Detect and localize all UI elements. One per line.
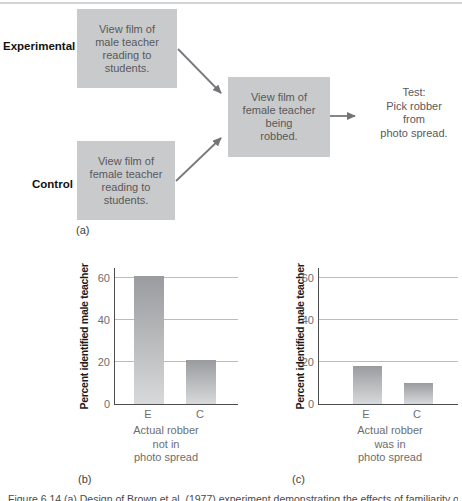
y-tick-label: 60 xyxy=(288,272,314,285)
chart-c-condition-note: Actual robber was in photo spread xyxy=(328,424,452,465)
y-tick-label: 20 xyxy=(84,356,110,369)
robbery-box-line: View film of xyxy=(228,91,330,104)
experimental-box-line: View film of xyxy=(77,23,177,36)
bar-control xyxy=(404,383,433,404)
robbery-box-line: robbed. xyxy=(228,130,330,143)
robbery-box-line: female teacher xyxy=(228,104,330,117)
figure-caption-clipped: Figure 6.14 (a) Design of Brown et al. (… xyxy=(8,493,458,501)
x-tick-label-e: E xyxy=(356,408,376,420)
control-label: Control xyxy=(32,178,73,190)
note-line: Actual robber xyxy=(104,424,228,438)
chart-b-y-tick-labels: 60 40 20 0 xyxy=(84,268,110,404)
experimental-box-line: students. xyxy=(77,62,177,75)
test-text-line: Pick robber xyxy=(368,100,460,114)
note-line: Actual robber xyxy=(328,424,452,438)
note-line: was in xyxy=(328,438,452,452)
control-box-line: female teacher xyxy=(77,168,175,181)
chart-c-y-tick-labels: 60 40 20 0 xyxy=(288,268,314,404)
experimental-box-line: reading to xyxy=(77,49,177,62)
y-tick-label: 0 xyxy=(288,398,314,411)
experimental-label: Experimental xyxy=(3,40,75,52)
control-box-line: View film of xyxy=(77,155,175,168)
panel-a-label: (a) xyxy=(76,224,89,236)
test-description-text: Test: Pick robber from photo spread. xyxy=(368,86,460,140)
top-rule-divider xyxy=(0,2,462,4)
chart-b-condition-note: Actual robber not in photo spread xyxy=(104,424,228,465)
y-tick-label: 0 xyxy=(84,398,110,411)
experimental-condition-box: View film of male teacher reading to stu… xyxy=(77,9,177,88)
x-tick-label-e: E xyxy=(138,408,158,420)
chart-b-plot-area xyxy=(114,268,238,405)
panel-b-label: (b) xyxy=(78,473,91,485)
bar-experimental xyxy=(353,366,382,404)
test-text-line: Test: xyxy=(368,86,460,100)
gridline-20 xyxy=(319,361,458,362)
gridline-40 xyxy=(319,319,458,320)
control-box-line: students. xyxy=(77,194,175,207)
figure-canvas: Experimental View film of male teacher r… xyxy=(0,0,462,501)
test-text-line: photo spread. xyxy=(368,127,460,141)
gridline-60 xyxy=(319,277,458,278)
note-line: photo spread xyxy=(328,451,452,465)
robbery-film-box: View film of female teacher being robbed… xyxy=(228,77,330,157)
bar-experimental xyxy=(134,276,164,404)
chart-c-plot-area xyxy=(318,268,458,405)
y-tick-label: 40 xyxy=(288,314,314,327)
y-tick-label: 40 xyxy=(84,314,110,327)
y-tick-label: 60 xyxy=(84,272,110,285)
test-text-line: from xyxy=(368,113,460,127)
arrow-control-to-film-icon xyxy=(176,138,221,181)
note-line: photo spread xyxy=(104,451,228,465)
bar-control xyxy=(186,360,216,404)
experimental-box-line: male teacher xyxy=(77,36,177,49)
control-condition-box: View film of female teacher reading to s… xyxy=(77,141,175,220)
robbery-box-line: being xyxy=(228,117,330,130)
note-line: not in xyxy=(104,438,228,452)
y-tick-label: 20 xyxy=(288,356,314,369)
control-box-line: reading to xyxy=(77,181,175,194)
x-tick-label-c: C xyxy=(190,408,210,420)
x-tick-label-c: C xyxy=(407,408,427,420)
panel-c-label: (c) xyxy=(292,473,305,485)
arrow-experimental-to-film-icon xyxy=(178,49,221,93)
